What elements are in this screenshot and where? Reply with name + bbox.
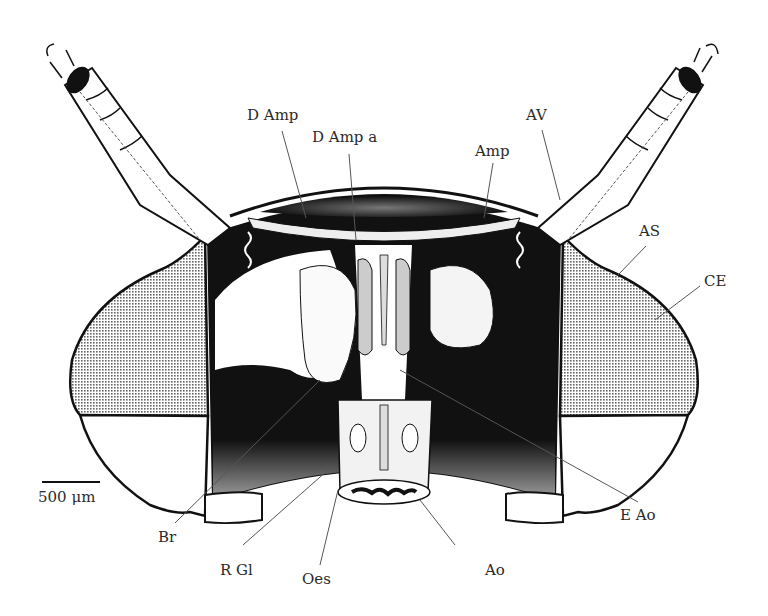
label-br: Br	[158, 530, 176, 545]
label-r-gl: R Gl	[220, 563, 253, 578]
scale-bar-label: 500 μm	[38, 490, 95, 505]
label-av: AV	[526, 108, 547, 123]
compound-eye-left	[70, 236, 208, 516]
label-oes: Oes	[302, 572, 331, 587]
label-ao: Ao	[485, 563, 505, 578]
antenna-left	[47, 44, 230, 245]
label-amp: Amp	[475, 144, 510, 159]
label-e-ao: E Ao	[620, 508, 656, 523]
aorta-tube	[338, 400, 432, 504]
antenna-right	[538, 44, 718, 245]
compound-eye-right	[560, 236, 698, 516]
label-as: AS	[639, 224, 660, 239]
label-d-amp-a: D Amp a	[312, 130, 377, 145]
label-ce: CE	[704, 274, 726, 289]
label-d-amp: D Amp	[247, 108, 298, 123]
